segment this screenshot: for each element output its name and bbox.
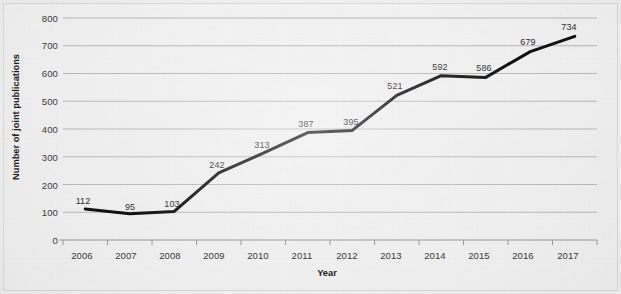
chart-container: Number of joint publications Year 800 70…: [0, 0, 621, 294]
gridlines: [63, 18, 597, 212]
data-label: 679: [511, 37, 545, 47]
x-axis-ticks: [63, 240, 597, 245]
data-label: 521: [378, 81, 412, 91]
data-label: 734: [552, 22, 586, 32]
data-label: 103: [155, 199, 189, 209]
data-label: 95: [113, 202, 147, 212]
data-series-line: [85, 36, 575, 213]
data-label: 313: [245, 140, 279, 150]
data-label: 395: [334, 117, 368, 127]
data-label: 592: [423, 62, 457, 72]
data-label: 242: [200, 160, 234, 170]
data-label: 112: [66, 196, 100, 206]
data-label: 586: [467, 63, 501, 73]
data-label: 387: [289, 119, 323, 129]
